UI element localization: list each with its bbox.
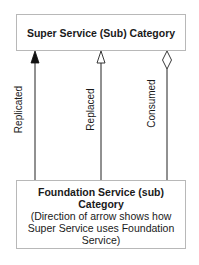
foundation-service-category-box: Foundation Service (sub) Category (Direc… — [16, 180, 186, 249]
super-service-category-box: Super Service (Sub) Category — [16, 14, 186, 51]
connector-replicated — [31, 51, 39, 180]
label-replicated: Replicated — [13, 84, 24, 136]
foundation-service-title-line1: Foundation Service (sub) — [17, 186, 185, 198]
arrow-direction-note-line1: (Direction of arrow shows how — [17, 210, 185, 222]
foundation-service-title-line2: Category — [17, 198, 185, 210]
connector-replaced — [97, 51, 105, 180]
arrow-direction-note-line3: Service) — [17, 234, 185, 246]
open-triangle-arrowhead-icon — [97, 51, 105, 63]
open-diamond-arrowhead-icon — [163, 51, 172, 69]
label-replaced: Replaced — [85, 86, 96, 134]
super-service-title: Super Service (Sub) Category — [27, 27, 175, 39]
connector-consumed — [163, 51, 172, 180]
label-consumed: Consumed — [146, 79, 157, 129]
filled-triangle-arrowhead-icon — [31, 51, 39, 63]
arrow-direction-note-line2: Super Service uses Foundation — [17, 222, 185, 234]
